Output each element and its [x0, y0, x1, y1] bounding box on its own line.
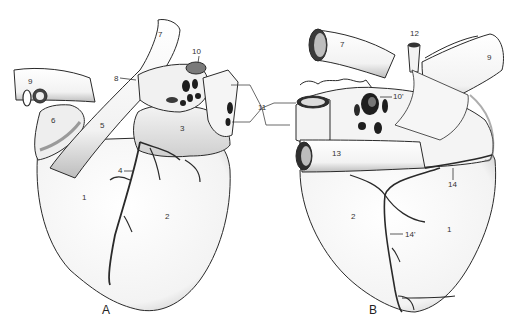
view-b-caption: B: [369, 304, 377, 316]
view-b-vessel-13: [300, 140, 425, 172]
label-b-14-prime: 14': [405, 231, 415, 239]
view-b-ventricles: [300, 149, 496, 312]
label-a-6: 6: [51, 117, 55, 125]
label-b-12: 12: [410, 30, 419, 38]
label-b-1: 1: [447, 226, 451, 234]
label-b-13: 13: [332, 150, 341, 158]
label-a-5: 5: [100, 122, 104, 130]
label-a-8: 8: [114, 75, 118, 83]
label-b-9: 9: [487, 54, 491, 62]
label-a-9: 9: [28, 78, 32, 86]
view-a-heart: [14, 19, 238, 310]
label-11: 11: [258, 104, 266, 112]
label-a-1: 1: [82, 194, 86, 202]
label-a-3: 3: [180, 125, 184, 133]
view-a-caption: A: [102, 304, 110, 316]
label-a-4: 4: [118, 167, 122, 175]
label-b-14: 14: [448, 181, 457, 189]
view-b-vessel-12: [408, 45, 420, 72]
view-b-heart: [296, 29, 504, 312]
label-a-7: 7: [158, 31, 162, 39]
view-b-vessel-7: [315, 30, 395, 78]
label-b-7: 7: [340, 41, 344, 49]
heart-illustration: [0, 0, 515, 322]
label-b-10-prime: 10': [393, 93, 403, 101]
heart-diagram: 1 2 3 4 5 6 7 8 9 10 A 11 1 2 7 9 10' 12…: [0, 0, 515, 322]
label-b-2: 2: [351, 213, 355, 221]
label-a-2: 2: [165, 213, 169, 221]
label-a-10: 10: [192, 48, 201, 56]
